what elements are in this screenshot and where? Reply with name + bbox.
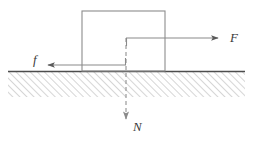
force-vector-applied: F	[126, 30, 239, 46]
force-diagram-figure: N F f	[0, 0, 253, 144]
force-vector-friction: f	[33, 52, 126, 67]
applied-force-label: F	[229, 30, 239, 45]
block-outline	[82, 11, 165, 71]
force-diagram-canvas: N F f	[0, 0, 253, 144]
friction-force-label: f	[33, 52, 39, 67]
normal-force-label: N	[132, 119, 143, 134]
